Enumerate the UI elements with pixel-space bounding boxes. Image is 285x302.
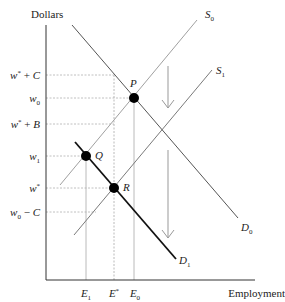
label-s1: S1 (216, 64, 226, 79)
demand-curve-d1 (75, 142, 176, 259)
tick-estar: E* (108, 287, 120, 299)
tick-w0-minus-c: w0 − C (10, 206, 41, 221)
point-r (109, 183, 119, 193)
labor-market-diagram: Dollars Employment w* + C w0 w* + B w1 w… (0, 0, 285, 302)
label-d0: D0 (240, 221, 253, 236)
tick-w0: w0 (29, 92, 40, 107)
guide-lines (46, 75, 134, 212)
point-p (129, 93, 139, 103)
tick-wstar: w* (29, 182, 40, 194)
tick-e1: E1 (80, 287, 92, 302)
label-s0: S0 (205, 8, 215, 23)
y-axis-label: Dollars (31, 8, 63, 20)
label-d1: D1 (178, 254, 191, 269)
tick-wstar-plus-c: w* + C (10, 69, 41, 81)
x-axis-label: Employment (228, 287, 285, 299)
label-r: R (122, 181, 130, 193)
supply-curve-s0 (60, 20, 197, 185)
label-q: Q (95, 149, 103, 161)
lower-shift-down-arrow (162, 150, 174, 238)
upper-shift-down-arrow (162, 66, 174, 108)
tick-wstar-plus-b: w* + B (11, 118, 41, 130)
point-q (81, 151, 91, 161)
tick-w1: w1 (29, 150, 40, 165)
tick-e0: E0 (129, 287, 141, 302)
vertical-guides (86, 75, 134, 280)
demand-curve-d0 (72, 25, 238, 218)
label-p: P (129, 77, 137, 89)
